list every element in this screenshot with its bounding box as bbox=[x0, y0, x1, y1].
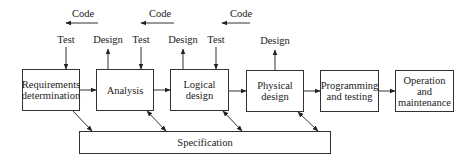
design-label-1: Design bbox=[93, 34, 123, 45]
test-label-1: Test bbox=[57, 34, 74, 45]
spec-arrow-logical bbox=[223, 111, 242, 131]
stage-logical-design: Logical design bbox=[170, 69, 229, 111]
test-label-3: Test bbox=[207, 34, 224, 45]
spec-arrow-physical bbox=[298, 112, 318, 131]
code-label-1: Code bbox=[72, 8, 94, 19]
spec-arrow-req bbox=[73, 111, 92, 131]
stage-requirements: Requirements determination bbox=[22, 69, 80, 111]
stage-programming-testing: Programming and testing bbox=[320, 70, 379, 112]
code-label-2: Code bbox=[149, 8, 171, 19]
stage-physical-design: Physical design bbox=[246, 70, 304, 112]
design-label-2: Design bbox=[168, 34, 198, 45]
design-label-3: Design bbox=[260, 35, 290, 46]
spec-arrow-analysis bbox=[147, 111, 166, 131]
code-label-3: Code bbox=[230, 8, 252, 19]
test-label-2: Test bbox=[132, 34, 149, 45]
specification-box: Specification bbox=[79, 131, 331, 154]
stage-operation-maintenance: Operation and maintenance bbox=[395, 70, 454, 112]
stage-analysis: Analysis bbox=[96, 69, 154, 111]
